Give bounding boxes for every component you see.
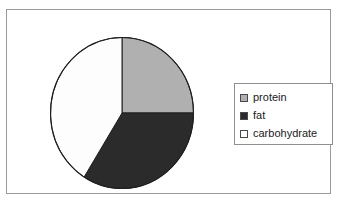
- legend-swatch-protein: [240, 94, 248, 102]
- legend-label-protein: protein: [253, 92, 287, 103]
- legend-swatch-fat: [240, 112, 248, 120]
- legend-box[interactable]: protein fat carbohydrate: [234, 83, 333, 145]
- legend-swatch-carbohydrate: [240, 130, 248, 138]
- pie-chart: [49, 36, 195, 190]
- pie-slice-protein[interactable]: [122, 38, 194, 114]
- pie-chart-svg: [49, 36, 195, 190]
- legend-item-fat[interactable]: fat: [240, 107, 328, 124]
- legend-item-protein[interactable]: protein: [240, 89, 328, 106]
- pie-slice-group: [50, 38, 193, 189]
- figure-canvas: protein fat carbohydrate: [0, 0, 338, 206]
- plot-frame: protein fat carbohydrate: [6, 9, 331, 194]
- legend-label-fat: fat: [253, 110, 265, 121]
- legend-label-carbohydrate: carbohydrate: [253, 128, 317, 139]
- legend-item-carbohydrate[interactable]: carbohydrate: [240, 125, 328, 142]
